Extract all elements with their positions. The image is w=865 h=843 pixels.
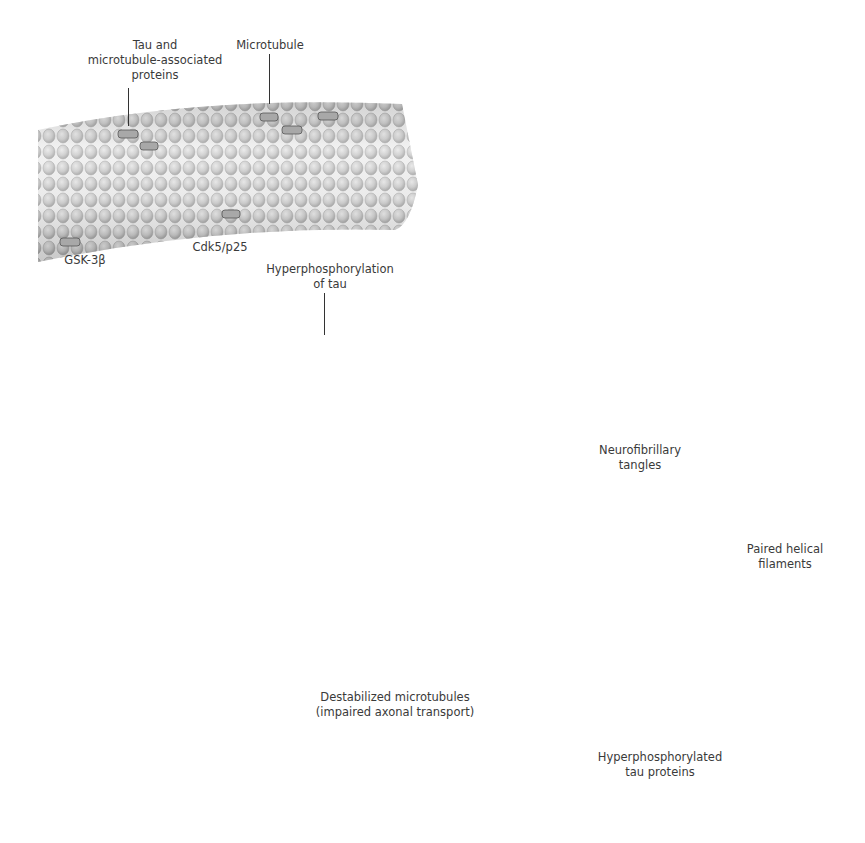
label-paired-helical: Paired helical filaments (730, 542, 840, 572)
label-hyperphosphorylated-tau: Hyperphosphorylated tau proteins (590, 750, 730, 780)
label-tangles: Neurofibrillary tangles (585, 443, 695, 473)
leader-hyperphosphorylation (324, 293, 325, 335)
microtubule-normal (38, 102, 418, 262)
label-gsk3b: GSK-3β (50, 253, 120, 268)
leader-microtubule (269, 54, 270, 104)
label-cdk5: Cdk5/p25 (180, 240, 260, 255)
label-hyperphosphorylation: Hyperphosphorylation of tau (250, 262, 410, 292)
label-microtubule: Microtubule (210, 38, 330, 53)
label-destabilized: Destabilized microtubules (impaired axon… (300, 690, 490, 720)
leader-tau-map (128, 88, 129, 126)
